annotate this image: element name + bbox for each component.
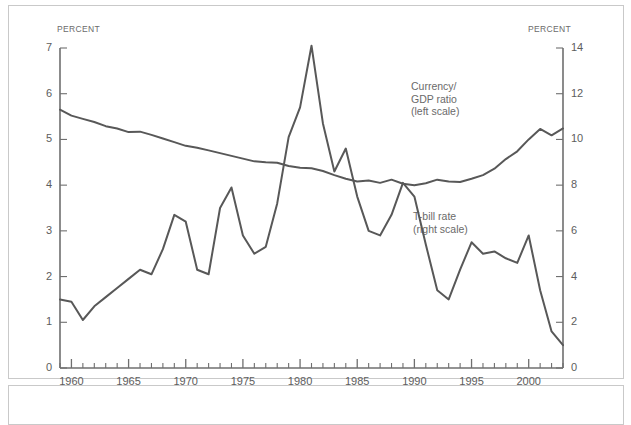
x-axis-tick-label: 1985 bbox=[337, 375, 377, 387]
x-axis-tick-label: 1980 bbox=[280, 375, 320, 387]
right-axis-tick-label: 6 bbox=[571, 224, 595, 236]
left-axis-tick-label: 1 bbox=[30, 315, 52, 327]
x-axis-tick-label: 1975 bbox=[223, 375, 263, 387]
left-axis-unit-label: PERCENT bbox=[57, 24, 100, 34]
right-axis-tick-label: 14 bbox=[571, 41, 595, 53]
series-line-currency-gdp-ratio bbox=[60, 110, 563, 185]
left-axis-tick-label: 6 bbox=[30, 87, 52, 99]
right-axis-tick-label: 10 bbox=[571, 132, 595, 144]
left-axis-tick-label: 3 bbox=[30, 224, 52, 236]
caption-frame bbox=[8, 385, 624, 425]
left-axis-tick-label: 4 bbox=[30, 178, 52, 190]
plot-area bbox=[60, 48, 563, 368]
x-axis-tick-label: 1970 bbox=[166, 375, 206, 387]
right-axis-tick-label: 2 bbox=[571, 315, 595, 327]
right-axis-tick-label: 4 bbox=[571, 270, 595, 282]
series-group bbox=[60, 46, 563, 345]
axes-group bbox=[60, 48, 563, 368]
series-line-t-bill-rate bbox=[60, 46, 563, 345]
x-axis-tick-label: 1960 bbox=[51, 375, 91, 387]
x-axis-tick-label: 1995 bbox=[452, 375, 492, 387]
left-axis-tick-label: 0 bbox=[30, 361, 52, 373]
right-axis-unit-label: PERCENT bbox=[528, 24, 571, 34]
right-axis-tick-label: 8 bbox=[571, 178, 595, 190]
left-axis-tick-label: 2 bbox=[30, 270, 52, 282]
x-axis-tick-label: 2000 bbox=[509, 375, 549, 387]
right-axis-tick-label: 0 bbox=[571, 361, 595, 373]
left-axis-tick-label: 7 bbox=[30, 41, 52, 53]
x-axis-tick-label: 1990 bbox=[394, 375, 434, 387]
right-axis-tick-label: 12 bbox=[571, 87, 595, 99]
x-axis-tick-label: 1965 bbox=[109, 375, 149, 387]
left-axis-tick-label: 5 bbox=[30, 132, 52, 144]
plot-svg bbox=[60, 48, 563, 368]
